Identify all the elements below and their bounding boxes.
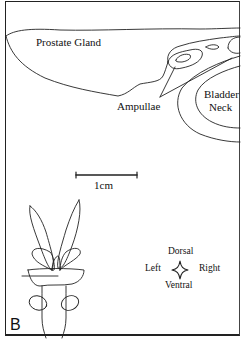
orientation-dorsal: Dorsal — [168, 246, 193, 256]
bulb-right — [59, 293, 81, 313]
prostate-body — [28, 269, 84, 287]
anatomy-drawing — [0, 0, 243, 341]
ampulla-left-lobe — [168, 49, 202, 69]
orientation-ventral: Ventral — [165, 280, 192, 290]
ampullae-label: Ampullae — [117, 100, 160, 112]
specimen-thumbnail — [22, 200, 84, 338]
bladder-neck-label-line1: Bladder — [204, 88, 239, 100]
ampulla-outer-outline — [168, 36, 240, 62]
urethra-left — [42, 286, 46, 338]
orientation-left: Left — [145, 263, 161, 273]
ampulla-right-lobe — [228, 37, 240, 53]
scale-bar-label: 1cm — [94, 179, 113, 191]
ampulla-left-lumen — [176, 54, 191, 62]
scale-bar — [76, 172, 137, 178]
orientation-star-icon — [172, 261, 188, 279]
lobe-left — [32, 248, 53, 270]
bulb-left — [27, 293, 49, 312]
vesicle-left — [30, 206, 55, 270]
panel-label: B — [10, 316, 21, 334]
urethra-right — [62, 286, 66, 338]
prostate-gland-label: Prostate Gland — [36, 36, 101, 48]
ampulla-mid-lumen — [206, 45, 219, 50]
orientation-right: Right — [199, 263, 220, 273]
bladder-neck-label-line2: Neck — [209, 101, 232, 113]
